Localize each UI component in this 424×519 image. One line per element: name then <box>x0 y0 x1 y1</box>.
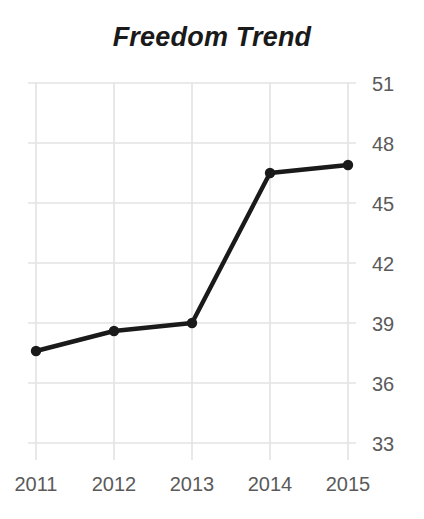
y-axis-tick-label: 42 <box>372 253 394 276</box>
y-axis-tick-label: 39 <box>372 313 394 336</box>
y-axis-tick-label: 48 <box>372 133 394 156</box>
data-point-2012 <box>109 326 119 336</box>
y-axis-tick-label: 51 <box>372 73 394 96</box>
data-point-2015 <box>343 160 353 170</box>
data-point-2014 <box>265 168 275 178</box>
vertical-gridlines <box>36 83 348 460</box>
y-axis-tick-label: 45 <box>372 193 394 216</box>
x-axis-tick-label: 2013 <box>156 473 228 496</box>
x-axis-tick-label: 2011 <box>0 473 72 496</box>
chart-container: Freedom Trend 51 48 45 42 <box>0 0 424 519</box>
data-point-2011 <box>31 346 41 356</box>
x-axis-tick-label: 2012 <box>78 473 150 496</box>
x-axis-tick-label: 2014 <box>234 473 306 496</box>
y-axis-tick-label: 36 <box>372 373 394 396</box>
x-axis-tick-label: 2015 <box>312 473 384 496</box>
data-point-2013 <box>187 318 197 328</box>
plot-area <box>0 0 424 519</box>
y-axis-tick-label: 33 <box>372 433 394 456</box>
